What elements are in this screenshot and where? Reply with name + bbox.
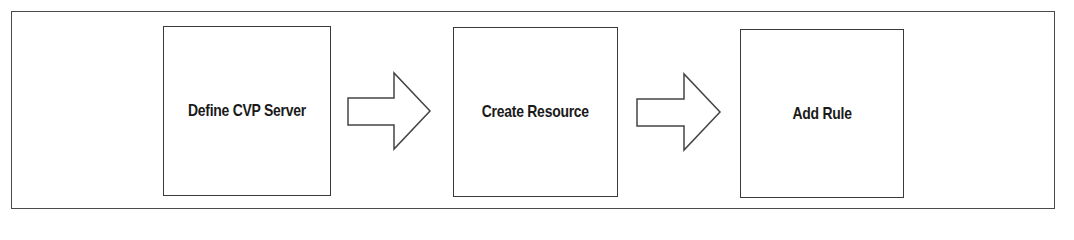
step-label: Define CVP Server [188, 101, 306, 121]
step-add-rule: Add Rule [740, 29, 904, 198]
step-create-resource: Create Resource [453, 27, 618, 197]
step-label: Create Resource [482, 102, 589, 122]
step-define-cvp-server: Define CVP Server [163, 26, 331, 196]
step-label: Add Rule [792, 104, 851, 124]
arrow-right-icon [346, 71, 434, 151]
arrow-right-icon [635, 72, 723, 152]
